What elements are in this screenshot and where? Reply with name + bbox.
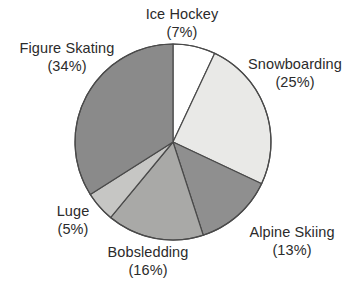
slice-label-alpine-skiing: Alpine Skiing (13%) xyxy=(228,224,356,260)
slice-label-percent: (13%) xyxy=(228,242,356,260)
slice-label-percent: (7%) xyxy=(122,24,242,42)
slice-label-ice-hockey: Ice Hockey (7%) xyxy=(122,6,242,42)
slice-label-percent: (5%) xyxy=(38,221,108,239)
slice-label-snowboarding: Snowboarding (25%) xyxy=(232,56,358,92)
slice-label-percent: (16%) xyxy=(88,262,208,280)
slice-label-figure-skating: Figure Skating (34%) xyxy=(2,40,132,76)
slice-label-name: Alpine Skiing xyxy=(228,224,356,242)
slice-label-name: Bobsledding xyxy=(88,244,208,262)
pie-chart: Ice Hockey (7%) Snowboarding (25%) Alpin… xyxy=(0,0,360,296)
slice-label-name: Snowboarding xyxy=(232,56,358,74)
slice-label-percent: (34%) xyxy=(2,58,132,76)
slice-label-percent: (25%) xyxy=(232,74,358,92)
slice-label-name: Figure Skating xyxy=(2,40,132,58)
slice-label-name: Ice Hockey xyxy=(122,6,242,24)
slice-label-name: Luge xyxy=(38,203,108,221)
slice-label-luge: Luge (5%) xyxy=(38,203,108,239)
slice-label-bobsledding: Bobsledding (16%) xyxy=(88,244,208,280)
